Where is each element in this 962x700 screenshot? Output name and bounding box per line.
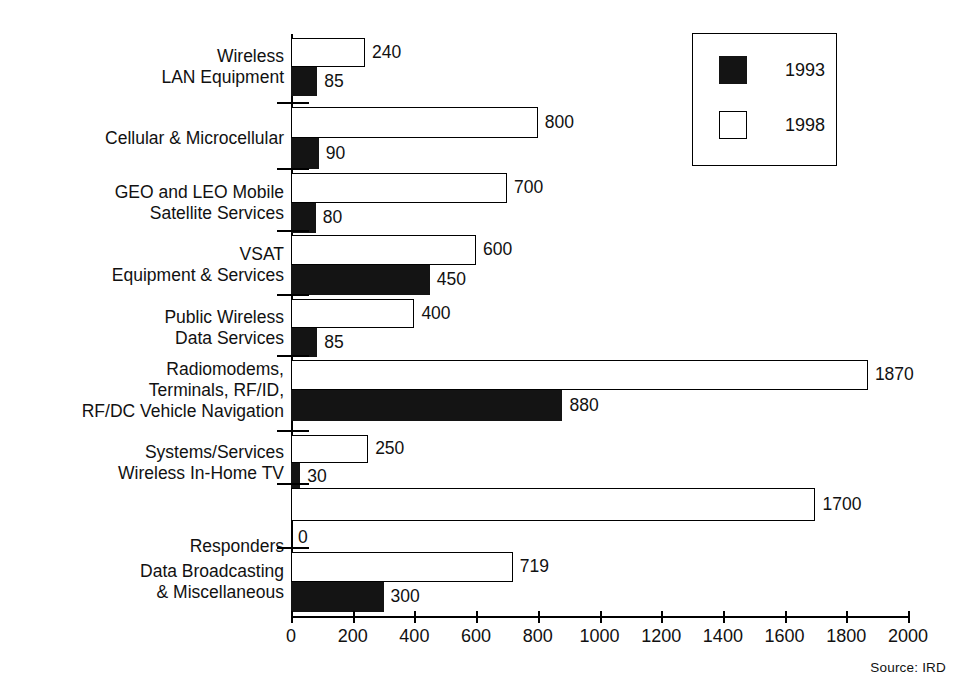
x-tick	[538, 611, 540, 623]
legend-label-1993: 1993	[785, 59, 825, 81]
x-tick	[414, 611, 416, 623]
category-label: VSAT Equipment & Services	[112, 244, 284, 286]
bar-1998	[291, 552, 513, 582]
bar-value-1993: 0	[298, 529, 308, 547]
bar-1993	[291, 582, 384, 612]
bar-1993	[291, 265, 430, 295]
bar-value-1993: 85	[324, 73, 343, 91]
category-separator	[277, 102, 309, 104]
bar-1998	[291, 38, 365, 67]
bar-value-1998: 250	[375, 440, 404, 458]
bar-1993	[291, 328, 317, 357]
category-separator	[277, 483, 309, 485]
x-tick	[353, 611, 355, 623]
bar-1993	[291, 390, 562, 421]
category-separator	[277, 230, 309, 232]
x-tick	[846, 611, 848, 623]
bar-value-1993: 90	[326, 145, 345, 163]
bar-value-1998: 600	[483, 241, 512, 259]
bar-1998	[291, 299, 414, 328]
category-separator	[277, 294, 309, 296]
x-tick	[785, 611, 787, 623]
bar-1993	[291, 463, 300, 490]
bar-value-1998: 800	[545, 114, 574, 132]
bar-value-1993: 450	[437, 271, 466, 289]
bar-1998	[291, 235, 476, 265]
category-separator	[277, 547, 309, 549]
legend-swatch-1993	[719, 56, 747, 84]
category-label: Radiomodems, Terminals, RF/ID, RF/DC Veh…	[82, 359, 284, 422]
bar-value-1993: 80	[323, 209, 342, 227]
category-label: Systems/Services Wireless In-Home TV	[118, 442, 284, 484]
category-label: GEO and LEO Mobile Satellite Services	[115, 182, 284, 224]
bar-value-1998: 240	[372, 44, 401, 62]
bar-value-1998: 719	[520, 558, 549, 576]
source-note: Source: IRD	[870, 660, 946, 675]
bar-1993	[291, 203, 316, 233]
x-tick	[908, 611, 910, 623]
bar-1998	[291, 173, 507, 203]
legend-label-1998: 1998	[785, 114, 825, 136]
category-label: Cellular & Microcellular	[105, 128, 284, 149]
category-label: Public Wireless Data Services	[164, 307, 284, 349]
legend-swatch-1998	[719, 111, 747, 139]
category-label: Responders	[190, 536, 284, 557]
bar-chart: Wireless LAN EquipmentCellular & Microce…	[0, 0, 962, 700]
category-separator	[277, 430, 309, 432]
bar-1993	[291, 67, 317, 96]
x-tick	[291, 611, 293, 623]
legend: 1993 1998	[692, 33, 837, 166]
bar-1998	[291, 107, 538, 138]
bar-value-1993: 85	[324, 334, 343, 352]
category-label: Data Broadcasting & Miscellaneous	[140, 561, 284, 603]
x-tick	[600, 611, 602, 623]
x-tick	[661, 611, 663, 623]
bar-value-1993: 300	[391, 588, 420, 606]
bar-value-1993: 30	[307, 468, 326, 486]
x-tick	[476, 611, 478, 623]
x-tick	[723, 611, 725, 623]
bar-value-1998: 1700	[822, 496, 861, 514]
bar-value-1998: 700	[514, 179, 543, 197]
bar-1998	[291, 435, 368, 463]
bar-value-1993: 880	[569, 397, 598, 415]
category-label: Wireless LAN Equipment	[161, 46, 284, 88]
x-tick-label: 2000	[868, 627, 948, 645]
bar-value-1998: 400	[421, 305, 450, 323]
bar-1998	[291, 488, 815, 521]
bar-1998	[291, 360, 868, 390]
category-separator	[277, 168, 309, 170]
category-separator	[277, 355, 309, 357]
bar-value-1998: 1870	[875, 366, 914, 384]
bar-1993	[291, 138, 319, 169]
